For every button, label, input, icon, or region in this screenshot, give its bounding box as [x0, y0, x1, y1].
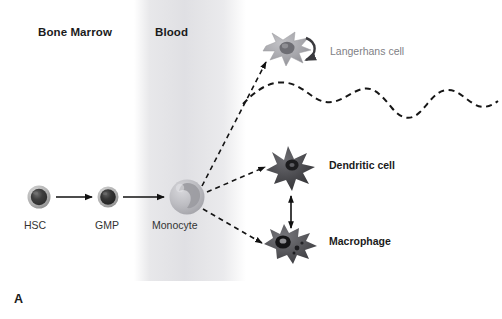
arrow-monocyte-to-macrophage: [203, 209, 262, 243]
cell-hsc: [28, 186, 51, 209]
cell-gmp: [98, 187, 119, 208]
panel-letter: A: [14, 292, 23, 306]
diagram-canvas: [0, 0, 502, 319]
arrow-monocyte-to-langerhans: [202, 62, 266, 186]
cell-label-hsc: HSC: [24, 219, 46, 231]
figure-panel: Bone Marrow Blood: [0, 0, 502, 319]
cell-label-macrophage: Macrophage: [329, 235, 391, 247]
arrow-monocyte-to-dendritic: [207, 167, 265, 192]
cell-label-langerhans: Langerhans cell: [330, 45, 404, 57]
cell-label-dendritic: Dendritic cell: [329, 159, 395, 171]
cell-langerhans: [263, 32, 315, 66]
cell-macrophage: [264, 224, 317, 264]
cell-monocyte: [170, 180, 205, 215]
epidermis-wave-line: [243, 82, 498, 117]
cell-label-gmp: GMP: [95, 219, 119, 231]
cell-dendritic: [266, 146, 315, 191]
cell-label-monocyte: Monocyte: [152, 219, 198, 231]
